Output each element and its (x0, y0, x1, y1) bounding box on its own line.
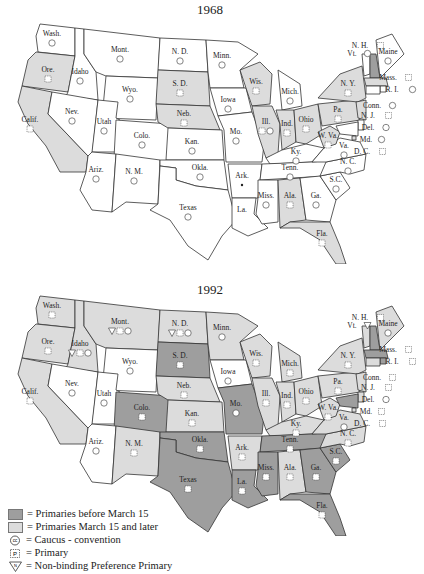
state-label: Mass. (379, 73, 397, 82)
primary-box-icon (319, 240, 325, 246)
swatch-light-icon (8, 522, 23, 533)
state-label: Va. (339, 141, 349, 150)
state-label: Va. (339, 413, 349, 422)
state-label: Conn. (363, 101, 381, 110)
state-label: Idaho (71, 67, 88, 76)
primary-box-icon (325, 142, 331, 148)
state-label: N. Y. (340, 351, 355, 360)
state-label: Ore. (41, 65, 54, 74)
primary-box-icon (303, 398, 309, 404)
state-maine (376, 306, 404, 350)
state-label: Ill. (262, 389, 271, 398)
state-label: Ariz. (88, 437, 103, 446)
state-label: Wis. (249, 349, 263, 358)
caucus-circle-icon (125, 328, 131, 334)
state-label: Mich. (281, 87, 299, 96)
state-label: Tenn. (282, 163, 299, 172)
state-label: S.C. (330, 447, 343, 456)
caucus-circle-icon (267, 128, 273, 134)
state-label: N. M. (125, 167, 143, 176)
primary-box-icon (345, 362, 351, 368)
state-label: Ind. (281, 119, 293, 128)
primary-box-icon (287, 474, 293, 480)
state-label: Okla. (192, 163, 209, 172)
primary-box-icon (27, 398, 33, 404)
caucus-circle-icon (385, 330, 391, 336)
state-label: Colo. (134, 403, 151, 412)
state-label: Miss. (258, 191, 275, 200)
state-label: Pa. (333, 377, 343, 386)
caucus-circle-icon (127, 96, 133, 102)
primary-box-icon (303, 126, 309, 132)
state-label: Mont. (111, 317, 129, 326)
state-label: Mich. (281, 359, 299, 368)
caucus-circle-icon (233, 410, 239, 416)
state-fla (280, 494, 346, 536)
caucus-circle-icon (139, 142, 145, 148)
caucus-circle-icon (263, 202, 269, 208)
state-label: Vt. (347, 321, 357, 330)
caucus-circle-icon (345, 168, 351, 174)
primary-box-icon: P (8, 548, 23, 559)
state-label: D. C. (354, 147, 370, 156)
state-label: Nev. (65, 379, 79, 388)
state-label: Texas (179, 475, 196, 484)
primary-box-icon (139, 414, 145, 420)
state-label: Idaho (71, 339, 88, 348)
legend-item-before-march15: = Primaries before March 15 (8, 508, 172, 521)
caucus-circle-icon (185, 330, 191, 336)
state-label: Ill. (262, 117, 271, 126)
state-label: Nev. (65, 107, 79, 116)
primary-box-icon (319, 512, 325, 518)
state-label: Iowa (221, 367, 237, 376)
state-label: N. Y. (340, 79, 355, 88)
caucus-circle-icon (93, 448, 99, 454)
caucus-circle-icon (177, 58, 183, 64)
state-label: Pa. (333, 105, 343, 114)
caucus-circle-icon (101, 128, 107, 134)
state-label: Ala. (284, 463, 297, 472)
primary-box-icon (185, 486, 191, 492)
caucus-circle-icon (77, 78, 83, 84)
state-label: Ga. (311, 463, 322, 472)
state-label: Ohio (299, 387, 314, 396)
state-label: Conn. (363, 373, 381, 382)
state-maine (376, 34, 404, 78)
primary-box-icon (189, 420, 195, 426)
primary-box-icon (177, 330, 183, 336)
caucus-circle-icon (117, 56, 123, 62)
state-s-d (156, 70, 210, 106)
primary-box-icon (335, 116, 341, 122)
state-label: Minn. (213, 51, 231, 60)
state-label: Ark. (235, 443, 249, 452)
triangle-icon: N (8, 561, 23, 572)
state-label: W. Va. (318, 131, 338, 140)
state-label: Miss. (258, 463, 275, 472)
state-label: R. I. (385, 85, 398, 94)
svg-text:N: N (14, 563, 17, 568)
state-label: N. J. (361, 383, 375, 392)
state-label: Okla. (192, 435, 209, 444)
caucus-circle-icon (93, 176, 99, 182)
primary-box-icon (380, 421, 386, 427)
state-d-c (352, 408, 356, 412)
state-label: Wash. (43, 29, 61, 38)
state-label: R. I. (385, 357, 398, 366)
state-label: Utah (97, 117, 112, 126)
state-label: Mo. (230, 127, 242, 136)
state-label: Del. (362, 123, 375, 132)
state-label: S. D. (172, 351, 187, 360)
caucus-circle-icon (389, 102, 395, 108)
primary-box-icon (287, 370, 293, 376)
primary-box-icon (379, 409, 385, 415)
caucus-circle-icon (385, 58, 391, 64)
primary-box-icon (406, 347, 412, 353)
state-label: Neb. (177, 381, 191, 390)
primary-box-icon (197, 446, 203, 452)
state-label: Texas (179, 203, 196, 212)
primary-box-icon (239, 454, 245, 460)
primary-box-icon (313, 474, 319, 480)
caucus-circle-icon (69, 390, 75, 396)
state-s-d (156, 342, 210, 378)
state-label: Ky. (291, 419, 302, 428)
